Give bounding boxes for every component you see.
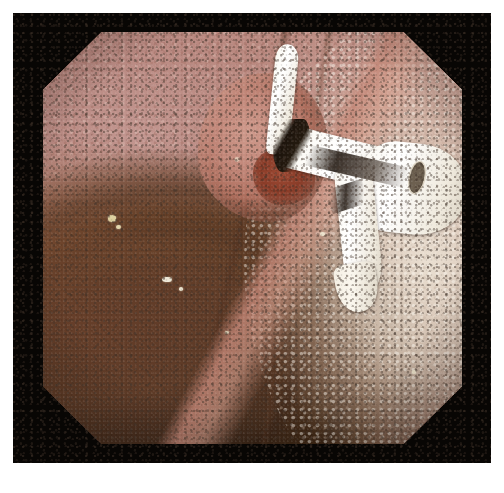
endoscope-viewport (43, 32, 462, 444)
screenshot-root (0, 0, 504, 493)
photo-frame (13, 13, 491, 463)
photographic-grain (43, 32, 462, 444)
